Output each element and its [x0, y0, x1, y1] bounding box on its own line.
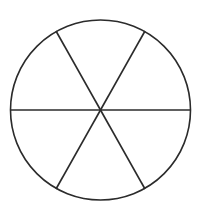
circle-sector-diagram	[0, 0, 199, 214]
